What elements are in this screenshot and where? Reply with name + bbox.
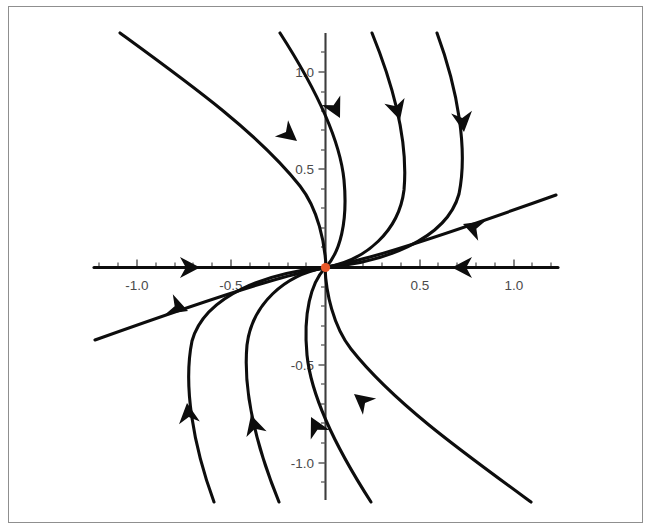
trajectory-t4: [327, 33, 462, 267]
fixed-point-origin: [321, 263, 330, 272]
arrowhead-t7: [347, 386, 376, 415]
arrowhead-t3: [384, 98, 410, 123]
figure-page: -1.0 -0.5 0.5 1.0 1.0 0.5 -0.5 -1.0: [0, 0, 650, 532]
trajectory-t8: [306, 268, 371, 502]
arrowhead-t1: [275, 120, 304, 149]
y-tick-label-0.5: 0.5: [295, 162, 314, 177]
arrowhead-t9: [241, 412, 267, 437]
arrowhead-t10: [177, 402, 200, 424]
arrowhead-t4: [451, 111, 474, 133]
trajectory-t7: [325, 268, 531, 502]
x-tick-label-1.0: 1.0: [505, 278, 524, 293]
x-tick-label--1.0: -1.0: [125, 278, 148, 293]
x-tick-label-0.5: 0.5: [411, 278, 430, 293]
y-tick-label--1.0: -1.0: [291, 456, 314, 471]
phase-portrait-plot: -1.0 -0.5 0.5 1.0 1.0 0.5 -0.5 -1.0: [0, 0, 650, 532]
